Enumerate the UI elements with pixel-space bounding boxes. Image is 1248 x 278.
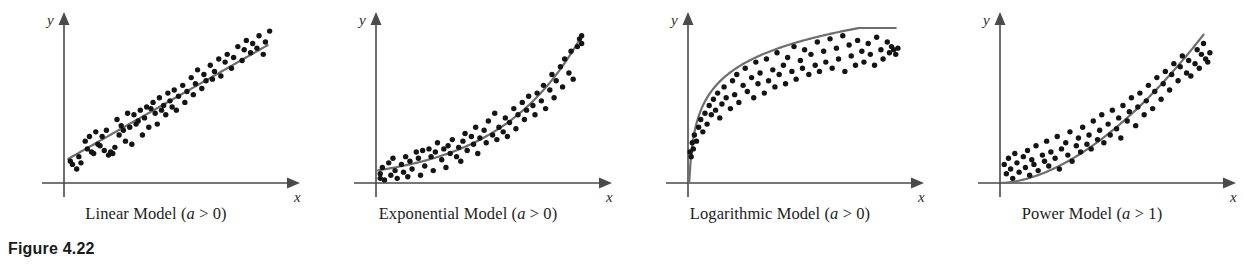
data-point: [1040, 152, 1045, 157]
data-point: [501, 129, 506, 134]
data-point: [261, 52, 266, 57]
y-axis-arrowhead: [59, 12, 70, 25]
data-point: [1180, 53, 1185, 58]
data-point: [1086, 132, 1091, 137]
data-point: [800, 66, 805, 71]
caption-suffix-power: > 1): [1130, 204, 1162, 223]
data-point: [140, 132, 145, 137]
data-point: [405, 174, 410, 179]
data-point: [1027, 173, 1032, 178]
x-axis-arrowhead: [1223, 178, 1236, 189]
data-point: [99, 134, 104, 139]
data-point: [119, 123, 124, 128]
data-point: [846, 42, 851, 47]
data-point: [403, 154, 408, 159]
caption-suffix-linear: > 0): [195, 204, 227, 223]
data-point: [764, 56, 769, 61]
data-point: [1108, 132, 1113, 137]
data-point: [469, 134, 474, 139]
data-point: [83, 138, 88, 143]
data-point: [210, 76, 215, 81]
data-point: [1105, 121, 1110, 126]
data-point: [201, 72, 206, 77]
data-point: [579, 41, 584, 46]
data-point: [707, 103, 712, 108]
data-point: [1114, 126, 1119, 131]
data-point: [263, 39, 268, 44]
data-point: [874, 35, 879, 40]
data-point: [481, 128, 486, 133]
data-point: [401, 169, 406, 174]
data-point: [433, 149, 438, 154]
data-point: [793, 76, 798, 81]
data-point: [222, 59, 227, 64]
data-point: [439, 157, 444, 162]
data-point: [426, 146, 431, 151]
data-point: [853, 62, 858, 67]
data-point: [454, 154, 459, 159]
data-point: [138, 107, 143, 112]
data-point: [859, 49, 864, 54]
data-point: [753, 59, 758, 64]
data-point: [456, 145, 461, 150]
data-point: [791, 44, 796, 49]
data-point: [165, 90, 170, 95]
data-point: [547, 87, 552, 92]
data-point: [110, 151, 115, 156]
data-point: [431, 168, 436, 173]
data-point: [203, 78, 208, 83]
data-point: [861, 59, 866, 64]
data-point: [721, 84, 726, 89]
data-point: [1002, 162, 1007, 167]
data-point: [148, 106, 153, 111]
data-point: [93, 129, 98, 134]
data-point: [477, 135, 482, 140]
x-axis-label: x: [917, 189, 925, 205]
data-point: [1158, 97, 1163, 102]
data-point: [231, 55, 236, 60]
caption-param-exponential: a: [517, 204, 525, 223]
data-point: [808, 52, 813, 57]
data-point: [1192, 61, 1197, 66]
data-point: [267, 28, 272, 33]
data-point: [520, 100, 525, 105]
y-axis-label: y: [981, 12, 990, 28]
data-point: [1021, 154, 1026, 159]
data-point: [842, 69, 847, 74]
data-point: [503, 115, 508, 120]
data-point: [1141, 112, 1146, 117]
x-axis-label: x: [605, 189, 613, 205]
data-point: [766, 78, 771, 83]
data-point: [409, 166, 414, 171]
data-point: [146, 125, 151, 130]
data-point: [817, 69, 822, 74]
data-point: [1055, 134, 1060, 139]
data-point: [1063, 140, 1068, 145]
data-point: [1057, 166, 1062, 171]
data-point: [1205, 59, 1210, 64]
panel-power: yx Power Model (a > 1): [936, 0, 1248, 250]
y-axis-label: y: [357, 12, 366, 28]
plot-exponential: yx: [312, 0, 624, 210]
caption-param-linear: a: [187, 204, 195, 223]
data-point: [254, 45, 259, 50]
data-point: [496, 125, 501, 130]
y-axis-arrowhead: [683, 12, 694, 25]
data-point: [560, 84, 565, 89]
plot-linear: yx: [0, 0, 312, 210]
data-point: [505, 134, 510, 139]
data-point: [471, 142, 476, 147]
data-point: [395, 176, 400, 181]
data-point: [1067, 129, 1072, 134]
data-point: [172, 87, 177, 92]
data-point: [443, 165, 448, 170]
data-point: [772, 84, 777, 89]
plot-logarithmic: yx: [624, 0, 936, 210]
data-point: [849, 53, 854, 58]
data-point: [1078, 149, 1083, 154]
data-point: [692, 132, 697, 137]
panel-caption-power: Power Model (a > 1): [936, 204, 1248, 224]
data-point: [157, 95, 162, 100]
data-point: [1133, 123, 1138, 128]
data-point: [568, 49, 573, 54]
